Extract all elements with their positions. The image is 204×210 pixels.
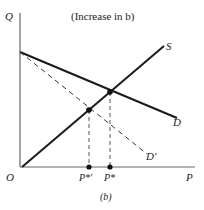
equilibrium-point <box>107 89 113 95</box>
p-axis-label: P <box>185 171 193 183</box>
p-star-prime-dot <box>86 164 91 169</box>
supply-label: S <box>166 40 172 52</box>
caption: (b) <box>100 191 112 203</box>
p-star-label: P* <box>103 172 115 183</box>
demand-label: D <box>172 116 181 128</box>
equilibrium-point-shifted <box>86 107 92 113</box>
demand-shifted-label: D' <box>145 150 157 162</box>
q-axis-label: Q <box>5 10 13 22</box>
p-star-prime-label: P*' <box>78 172 93 183</box>
demand-curve <box>20 52 177 118</box>
supply-curve <box>22 46 164 167</box>
demand-shifted-curve <box>20 52 147 154</box>
origin-label: O <box>6 171 14 183</box>
p-star-dot <box>107 164 112 169</box>
supply-demand-diagram: (Increase in b) Q P O S D D' P*' P* (b) <box>0 0 204 210</box>
diagram-title: (Increase in b) <box>71 10 135 23</box>
